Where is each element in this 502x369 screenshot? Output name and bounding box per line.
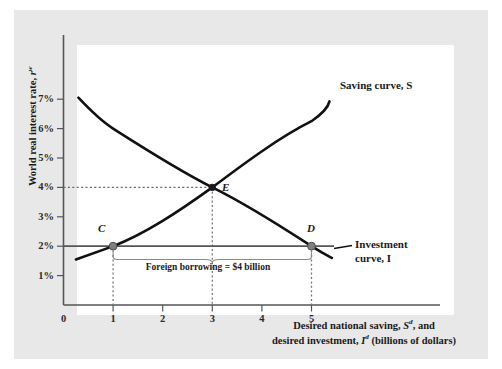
x-axis-title-line1: Desired national saving, Sd, and	[245, 318, 483, 333]
y-axis-title-superscript: w	[26, 66, 34, 71]
point-label-e: E	[222, 181, 229, 193]
x-tick-label-2: 2	[153, 313, 173, 324]
investment-curve-label-line1: Investment	[355, 238, 408, 252]
x-axis-title-line2: desired investment, Id (billions of doll…	[245, 333, 483, 348]
y-tick-label-2: 2%	[26, 240, 54, 251]
x-tick-label-0: 0	[54, 313, 74, 324]
y-tick-label-1: 1%	[26, 270, 54, 281]
point-label-d: D	[307, 222, 315, 234]
x-axis-title: Desired national saving, Sd, and desired…	[245, 318, 483, 347]
investment-label-leader	[334, 246, 352, 249]
investment-curve-label: Investment curve, I	[355, 238, 408, 266]
y-axis-title-text: World real interest rate,	[27, 75, 38, 186]
x-axis-ticks	[113, 305, 311, 312]
y-axis-title: World real interest rate, rw	[26, 26, 39, 226]
x-axis-title-line2-suffix: (billions of dollars)	[369, 334, 456, 345]
y-axis-title-symbol: r	[27, 71, 38, 75]
saving-curve	[76, 101, 330, 259]
y-axis-ticks	[57, 99, 64, 275]
x-tick-label-1: 1	[103, 313, 123, 324]
x-axis-title-line2-text: desired investment,	[272, 334, 361, 345]
investment-curve	[78, 98, 332, 258]
chart-screenshot: 1% 2% 3% 4% 5% 6% 7% 0 1 2 3 4 5 World r…	[0, 0, 502, 369]
foreign-borrowing-annotation: Foreign borrowing = $4 billion	[98, 262, 318, 272]
point-marker-D	[308, 242, 316, 250]
x-tick-label-3: 3	[202, 313, 222, 324]
x-axis-title-line1-suffix: , and	[413, 320, 435, 331]
point-marker-E	[209, 184, 215, 190]
investment-curve-label-line2: curve, I	[355, 252, 408, 266]
point-marker-C	[109, 242, 117, 250]
point-label-c: C	[98, 222, 105, 234]
saving-curve-label: Saving curve, S	[340, 79, 412, 93]
x-axis-title-line1-text: Desired national saving,	[293, 320, 403, 331]
